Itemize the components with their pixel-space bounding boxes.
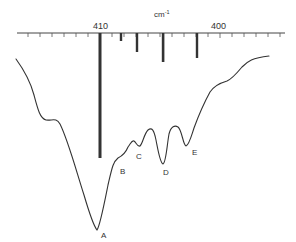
peak-label-B: B xyxy=(120,167,125,176)
axis-unit-label: cm-1 xyxy=(154,9,170,19)
stick-bar-4 xyxy=(162,33,165,62)
tick-label-400: 400 xyxy=(211,21,226,31)
stick-bar-2 xyxy=(120,33,122,41)
stick-bar-3 xyxy=(136,33,138,52)
peak-label-A: A xyxy=(101,231,107,240)
tick-label-410: 410 xyxy=(93,21,108,31)
axis-ticks xyxy=(28,33,280,38)
peak-label-D: D xyxy=(163,168,169,177)
spectrum-chart: cm-1 410 400 xyxy=(0,0,296,242)
spectrum-curve xyxy=(16,56,269,230)
peak-label-E: E xyxy=(192,148,197,157)
peak-label-C: C xyxy=(136,152,142,161)
stick-bar-1 xyxy=(99,33,102,158)
stick-bar-5 xyxy=(196,33,198,58)
spectrum-svg: cm-1 410 400 xyxy=(0,0,296,242)
